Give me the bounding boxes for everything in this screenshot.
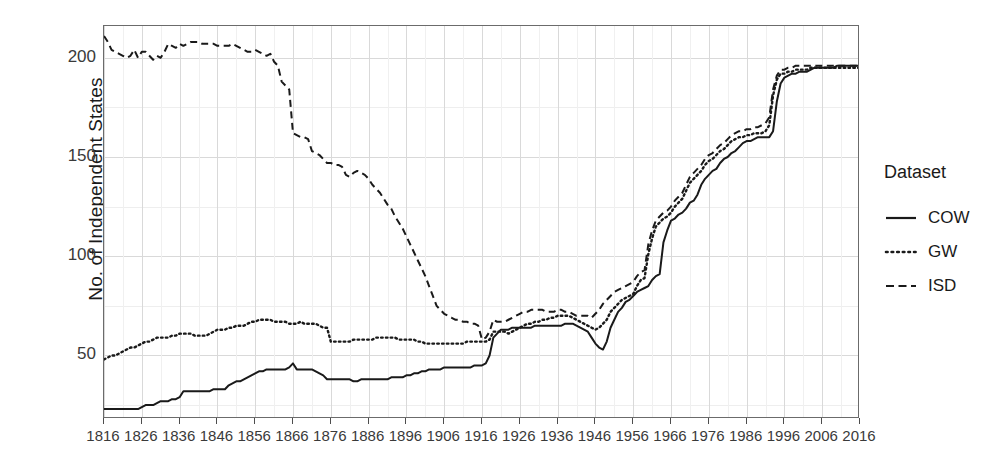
x-tick-mark bbox=[254, 418, 255, 424]
x-tick-mark bbox=[746, 418, 747, 424]
x-tick-mark bbox=[859, 418, 860, 424]
legend-item-cow[interactable]: COW bbox=[884, 201, 984, 235]
y-tick-label: 150 bbox=[54, 146, 96, 166]
x-tick-mark bbox=[443, 418, 444, 424]
x-tick-mark bbox=[783, 418, 784, 424]
x-tick-mark bbox=[481, 418, 482, 424]
x-axis-tick-labels: 1816182618361846185618661876188618961906… bbox=[0, 418, 987, 458]
x-tick-mark bbox=[179, 418, 180, 424]
legend-label: COW bbox=[928, 208, 970, 228]
legend-title: Dataset bbox=[884, 162, 984, 183]
x-tick-mark bbox=[821, 418, 822, 424]
x-tick-mark bbox=[405, 418, 406, 424]
legend-items: COWGWISD bbox=[884, 201, 984, 303]
plot-panel bbox=[103, 25, 859, 418]
x-tick-mark bbox=[292, 418, 293, 424]
y-tick-label: 100 bbox=[54, 245, 96, 265]
y-axis-tick-labels: 50100150200 bbox=[52, 0, 96, 466]
chart-root: No. of Independent States 50100150200 18… bbox=[0, 0, 987, 466]
x-tick-mark bbox=[368, 418, 369, 424]
legend-label: GW bbox=[928, 242, 957, 262]
x-tick-mark bbox=[594, 418, 595, 424]
series-line-isd bbox=[104, 36, 859, 340]
x-tick-mark bbox=[557, 418, 558, 424]
x-tick-mark bbox=[141, 418, 142, 424]
x-tick-mark bbox=[216, 418, 217, 424]
y-tick-label: 50 bbox=[54, 344, 96, 364]
x-tick-label: 2016 bbox=[829, 427, 889, 444]
x-tick-mark bbox=[519, 418, 520, 424]
series-line-gw bbox=[104, 68, 859, 360]
legend-key-dotted-line-icon bbox=[884, 242, 918, 262]
x-tick-mark bbox=[670, 418, 671, 424]
x-tick-mark bbox=[330, 418, 331, 424]
legend-key-solid-line-icon bbox=[884, 208, 918, 228]
legend-key-dashed-line-icon bbox=[884, 276, 918, 296]
legend: Dataset COWGWISD bbox=[884, 162, 984, 303]
x-tick-mark bbox=[632, 418, 633, 424]
legend-item-isd[interactable]: ISD bbox=[884, 269, 984, 303]
x-tick-mark bbox=[103, 418, 104, 424]
series-layer bbox=[104, 26, 859, 418]
series-line-cow bbox=[104, 66, 859, 409]
x-tick-mark bbox=[708, 418, 709, 424]
legend-label: ISD bbox=[928, 276, 956, 296]
legend-item-gw[interactable]: GW bbox=[884, 235, 984, 269]
y-tick-label: 200 bbox=[54, 47, 96, 67]
